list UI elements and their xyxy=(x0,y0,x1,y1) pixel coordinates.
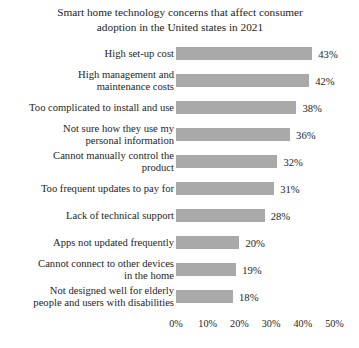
category-label-line: Not designed well for elderly xyxy=(0,284,174,296)
category-label-line: Too complicated to install and use xyxy=(0,101,174,113)
x-axis-tick-label: 10% xyxy=(198,318,217,329)
bar-value-label: 19% xyxy=(242,264,261,275)
category-label-line: maintenance costs xyxy=(0,81,174,93)
bar-row: High set-up cost43% xyxy=(0,40,359,67)
bar-track: 36% xyxy=(176,128,359,141)
bar-row: Cannot connect to other devicesin the ho… xyxy=(0,256,359,283)
bar-value-label: 20% xyxy=(245,237,264,248)
x-axis: 0%10%20%30%40%50% xyxy=(176,318,341,334)
bar-track: 19% xyxy=(176,263,359,276)
bar-track: 20% xyxy=(176,236,359,249)
bar-value-label: 38% xyxy=(302,102,321,113)
bar xyxy=(176,155,277,168)
bar-track: 28% xyxy=(176,209,359,222)
bar-track: 38% xyxy=(176,101,359,114)
bar xyxy=(176,263,236,276)
bar-row: Cannot manually control theproduct32% xyxy=(0,148,359,175)
bar-row: Apps not updated frequently20% xyxy=(0,229,359,256)
x-axis-tick-label: 40% xyxy=(293,318,312,329)
bar xyxy=(176,290,233,303)
bar-value-label: 31% xyxy=(280,183,299,194)
category-label: Lack of technical support xyxy=(0,209,174,221)
bar-row: Not sure how they use mypersonal informa… xyxy=(0,121,359,148)
bar-row: Not designed well for elderlypeople and … xyxy=(0,283,359,310)
bar-value-label: 42% xyxy=(315,75,334,86)
bar xyxy=(176,128,290,141)
x-axis-tick-label: 30% xyxy=(262,318,281,329)
bar-value-label: 43% xyxy=(318,48,337,59)
category-label-line: product xyxy=(0,162,174,174)
bar-track: 42% xyxy=(176,74,359,87)
plot-area: High set-up cost43%High management andma… xyxy=(0,40,359,315)
category-label: Too complicated to install and use xyxy=(0,101,174,113)
bar-value-label: 32% xyxy=(283,156,302,167)
category-label: Not sure how they use mypersonal informa… xyxy=(0,122,174,147)
category-label: Cannot connect to other devicesin the ho… xyxy=(0,257,174,282)
category-label-line: High management and xyxy=(0,68,174,80)
x-axis-tick-label: 20% xyxy=(230,318,249,329)
bar-value-label: 18% xyxy=(239,291,258,302)
category-label-line: Apps not updated frequently xyxy=(0,236,174,248)
category-label-line: Cannot connect to other devices xyxy=(0,257,174,269)
category-label: Cannot manually control theproduct xyxy=(0,149,174,174)
bar xyxy=(176,74,309,87)
category-label-line: Not sure how they use my xyxy=(0,122,174,134)
x-axis-tick-label: 50% xyxy=(325,318,344,329)
bar-row: High management andmaintenance costs42% xyxy=(0,67,359,94)
bar-track: 18% xyxy=(176,290,359,303)
chart-title: Smart home technology concerns that affe… xyxy=(30,5,330,35)
bar-value-label: 36% xyxy=(296,129,315,140)
bar-chart: Smart home technology concerns that affe… xyxy=(0,0,359,348)
category-label-line: in the home xyxy=(0,270,174,282)
category-label-line: Lack of technical support xyxy=(0,209,174,221)
category-label: Apps not updated frequently xyxy=(0,236,174,248)
bar xyxy=(176,47,312,60)
bar-row: Too complicated to install and use38% xyxy=(0,94,359,121)
bar xyxy=(176,236,239,249)
bar-value-label: 28% xyxy=(271,210,290,221)
chart-title-line-2: adoption in the United states in 2021 xyxy=(97,21,263,33)
chart-title-line-1: Smart home technology concerns that affe… xyxy=(57,6,303,18)
bar xyxy=(176,182,274,195)
bar-track: 43% xyxy=(176,47,359,60)
bar-track: 31% xyxy=(176,182,359,195)
x-axis-tick-label: 0% xyxy=(169,318,183,329)
category-label-line: High set-up cost xyxy=(0,47,174,59)
bar-row: Lack of technical support28% xyxy=(0,202,359,229)
bar xyxy=(176,209,265,222)
category-label: Too frequent updates to pay for xyxy=(0,182,174,194)
bar-track: 32% xyxy=(176,155,359,168)
category-label: High management andmaintenance costs xyxy=(0,68,174,93)
category-label: Not designed well for elderlypeople and … xyxy=(0,284,174,309)
category-label-line: people and users with disabilities xyxy=(0,297,174,309)
category-label-line: Too frequent updates to pay for xyxy=(0,182,174,194)
bar xyxy=(176,101,296,114)
category-label: High set-up cost xyxy=(0,47,174,59)
category-label-line: personal information xyxy=(0,135,174,147)
category-label-line: Cannot manually control the xyxy=(0,149,174,161)
bar-row: Too frequent updates to pay for31% xyxy=(0,175,359,202)
